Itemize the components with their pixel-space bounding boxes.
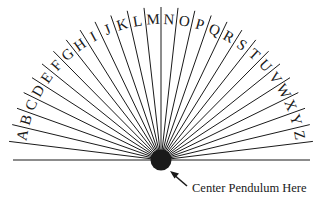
letter-j: J: [102, 21, 114, 38]
center-dot[interactable]: [151, 150, 172, 171]
letter-n: N: [163, 11, 175, 28]
letter-o: O: [178, 12, 192, 30]
letter-a: A: [13, 128, 31, 142]
ray-group: [9, 7, 313, 160]
ray-line: [53, 51, 161, 160]
letter-l: L: [132, 12, 144, 29]
ray-line: [127, 11, 161, 160]
ray-line: [161, 108, 305, 160]
ray-line: [161, 51, 269, 160]
letter-m: M: [146, 11, 160, 28]
ray-line: [161, 11, 195, 160]
letter-e: E: [37, 69, 55, 86]
letter-y: Y: [287, 112, 305, 127]
caption-text: Center Pendulum Here: [192, 181, 307, 195]
letter-b: B: [17, 113, 35, 127]
pendulum-chart: ABCDEFGHIJKLMNOPQRSTUVWXYZ Center Pendul…: [0, 0, 323, 204]
letter-f: F: [48, 57, 65, 74]
ray-line: [66, 40, 161, 160]
arrow-icon: [170, 171, 187, 186]
ray-line: [161, 40, 256, 160]
letter-z: Z: [291, 129, 308, 141]
letter-i: I: [87, 28, 99, 44]
letter-k: K: [115, 15, 130, 33]
letter-h: H: [71, 35, 89, 54]
ray-line: [161, 141, 313, 160]
ray-line: [161, 16, 211, 161]
ray-line: [17, 108, 161, 160]
ray-line: [9, 141, 161, 160]
letter-t: T: [246, 45, 263, 63]
ray-line: [111, 16, 161, 161]
letter-d: D: [28, 82, 47, 99]
letter-p: P: [194, 16, 206, 34]
